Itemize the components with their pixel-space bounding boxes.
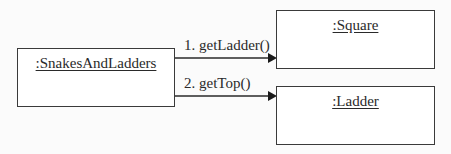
object-ladder: :Ladder: [276, 86, 435, 145]
message-label-1: 1. getLadder(): [184, 37, 270, 54]
object-square: :Square: [276, 10, 435, 69]
object-label: :Square: [277, 17, 434, 34]
message-label-2: 2. getTop(): [184, 75, 250, 92]
object-snakes-and-ladders: :SnakesAndLadders: [17, 48, 175, 107]
object-label: :Ladder: [277, 93, 434, 110]
object-label: :SnakesAndLadders: [18, 55, 174, 72]
